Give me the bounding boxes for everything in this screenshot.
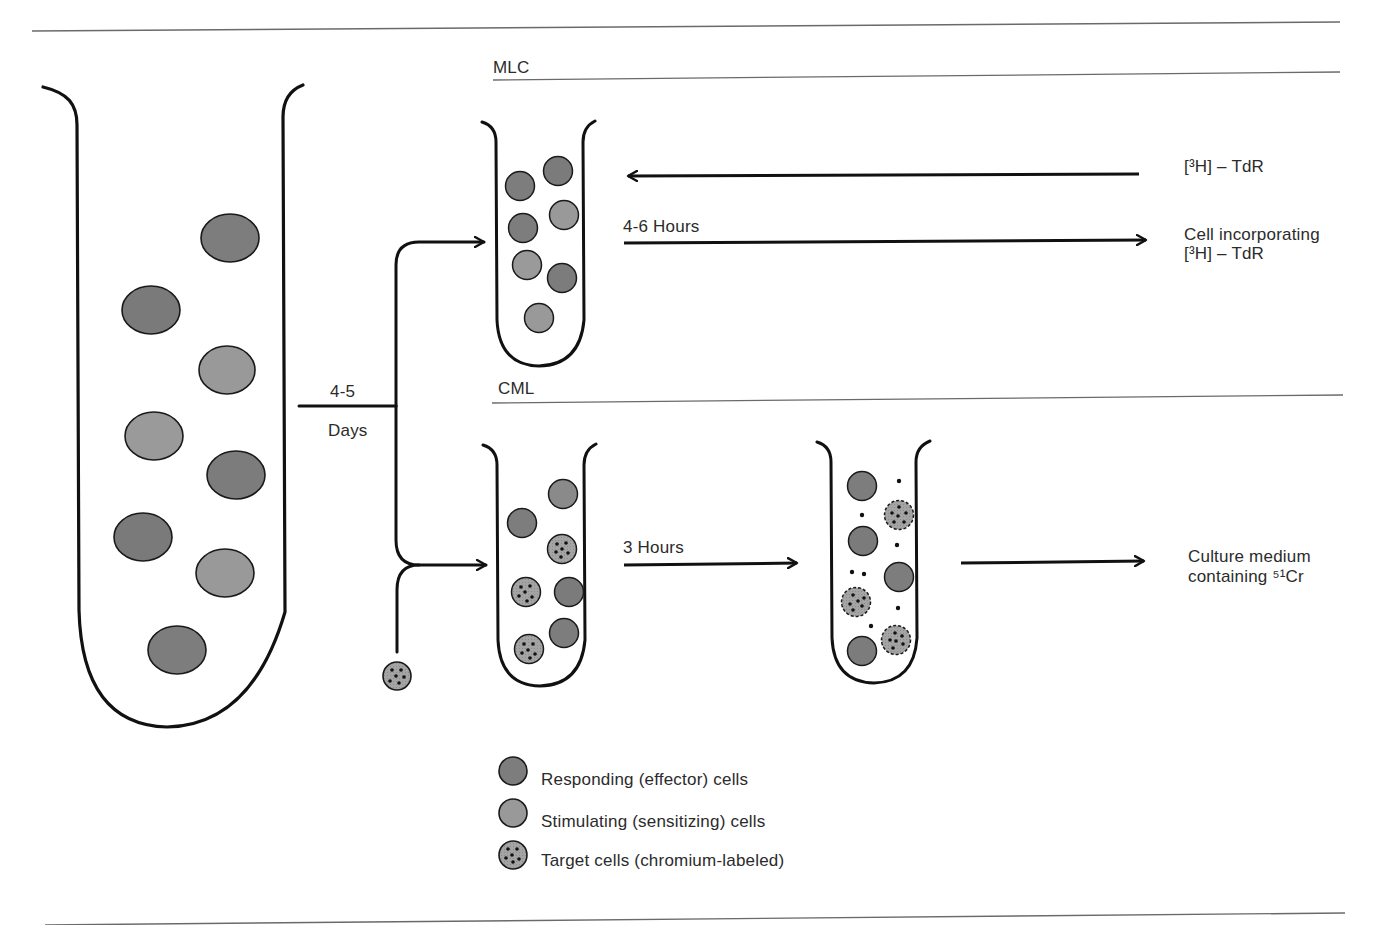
stimulating-cell bbox=[196, 549, 254, 597]
legend-responding-swatch bbox=[499, 757, 527, 785]
legend-label-target: Target cells (chromium-labeled) bbox=[541, 850, 784, 871]
cml-section-rule bbox=[492, 395, 1343, 403]
legend-target-swatch bbox=[499, 841, 527, 869]
tdr-reagent-label: [³H] – TdR bbox=[1184, 156, 1264, 177]
responding-cell bbox=[848, 472, 877, 501]
responding-cell bbox=[207, 451, 265, 499]
tdr-input-arrow bbox=[628, 174, 1139, 176]
legend-label-stimulating: Stimulating (sensitizing) cells bbox=[541, 811, 765, 832]
section-label-cml: CML bbox=[498, 378, 535, 399]
cml-output-arrow bbox=[961, 561, 1144, 563]
responding-cell bbox=[555, 578, 584, 607]
added-target-cell bbox=[383, 662, 411, 690]
responding-cell bbox=[548, 264, 577, 293]
cml-tube-initial-cells bbox=[508, 480, 584, 664]
stimulating-cell bbox=[550, 201, 579, 230]
responding-cell bbox=[848, 637, 877, 666]
culture-duration-unit: Days bbox=[328, 420, 368, 441]
responding-cell bbox=[885, 563, 914, 592]
responding-cell bbox=[201, 214, 259, 262]
mlc-output-label-line1: Cell incorporating bbox=[1184, 224, 1320, 245]
responding-cell bbox=[509, 214, 538, 243]
mlc-incubation-label: 4-6 Hours bbox=[623, 216, 699, 237]
target-cell bbox=[512, 578, 541, 607]
responding-cell bbox=[508, 509, 537, 538]
top-rule bbox=[32, 22, 1340, 31]
cml-tube-lysed-cells bbox=[842, 472, 914, 666]
target-cell bbox=[515, 635, 544, 664]
branch-connector bbox=[299, 242, 486, 652]
mlc-section-rule bbox=[493, 72, 1340, 80]
lysed-target-cell bbox=[842, 588, 871, 617]
stimulating-cell bbox=[125, 412, 183, 460]
cml-output-label-line2: containing ⁵¹Cr bbox=[1188, 566, 1304, 587]
section-label-mlc: MLC bbox=[493, 57, 530, 78]
legend-stimulating-swatch bbox=[499, 799, 527, 827]
responding-cell bbox=[122, 286, 180, 334]
stimulating-cell bbox=[525, 304, 554, 333]
cml-incubation-label: 3 Hours bbox=[623, 537, 684, 558]
stimulating-cell bbox=[199, 346, 255, 394]
responding-cell bbox=[550, 619, 579, 648]
responding-cell bbox=[148, 626, 206, 674]
lysed-target-cell bbox=[882, 626, 911, 655]
cml-output-label-line1: Culture medium bbox=[1188, 546, 1311, 567]
mlc-tube-cells bbox=[506, 157, 579, 333]
responding-cell bbox=[849, 527, 878, 556]
mlc-output-arrow bbox=[624, 240, 1146, 243]
bottom-rule bbox=[45, 913, 1345, 925]
large-tube-cells bbox=[114, 214, 265, 674]
legend-label-responding: Responding (effector) cells bbox=[541, 769, 748, 790]
responding-cell bbox=[506, 172, 535, 201]
mlc-output-label-line2: [³H] – TdR bbox=[1184, 243, 1264, 264]
cml-incubation-arrow bbox=[624, 563, 797, 565]
lysed-target-cell bbox=[885, 501, 914, 530]
stimulating-cell bbox=[549, 480, 578, 509]
responding-cell bbox=[544, 157, 573, 186]
culture-duration-value: 4-5 bbox=[330, 381, 355, 402]
target-cell bbox=[548, 535, 577, 564]
responding-cell bbox=[114, 513, 172, 561]
stimulating-cell bbox=[513, 251, 542, 280]
legend-swatches bbox=[499, 757, 527, 869]
